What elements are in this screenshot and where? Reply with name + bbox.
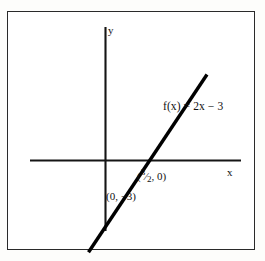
x-intercept-remainder: , 0) (152, 170, 167, 182)
fraction-numerator: 3 (141, 167, 146, 177)
x-intercept-fraction: 3⁄2 (141, 167, 152, 185)
figure-container: y x f(x) = 2x − 3 (3⁄2, 0) (0, −3) (0, 0, 265, 261)
coordinate-plane-graphic (0, 0, 265, 261)
y-intercept-label: (0, −3) (106, 190, 136, 202)
fraction-denominator: 2 (147, 174, 152, 184)
y-axis-label: y (108, 24, 114, 36)
x-axis-label: x (227, 166, 233, 178)
x-intercept-label: (3⁄2, 0) (137, 167, 166, 185)
function-equation-label: f(x) = 2x − 3 (163, 100, 223, 112)
